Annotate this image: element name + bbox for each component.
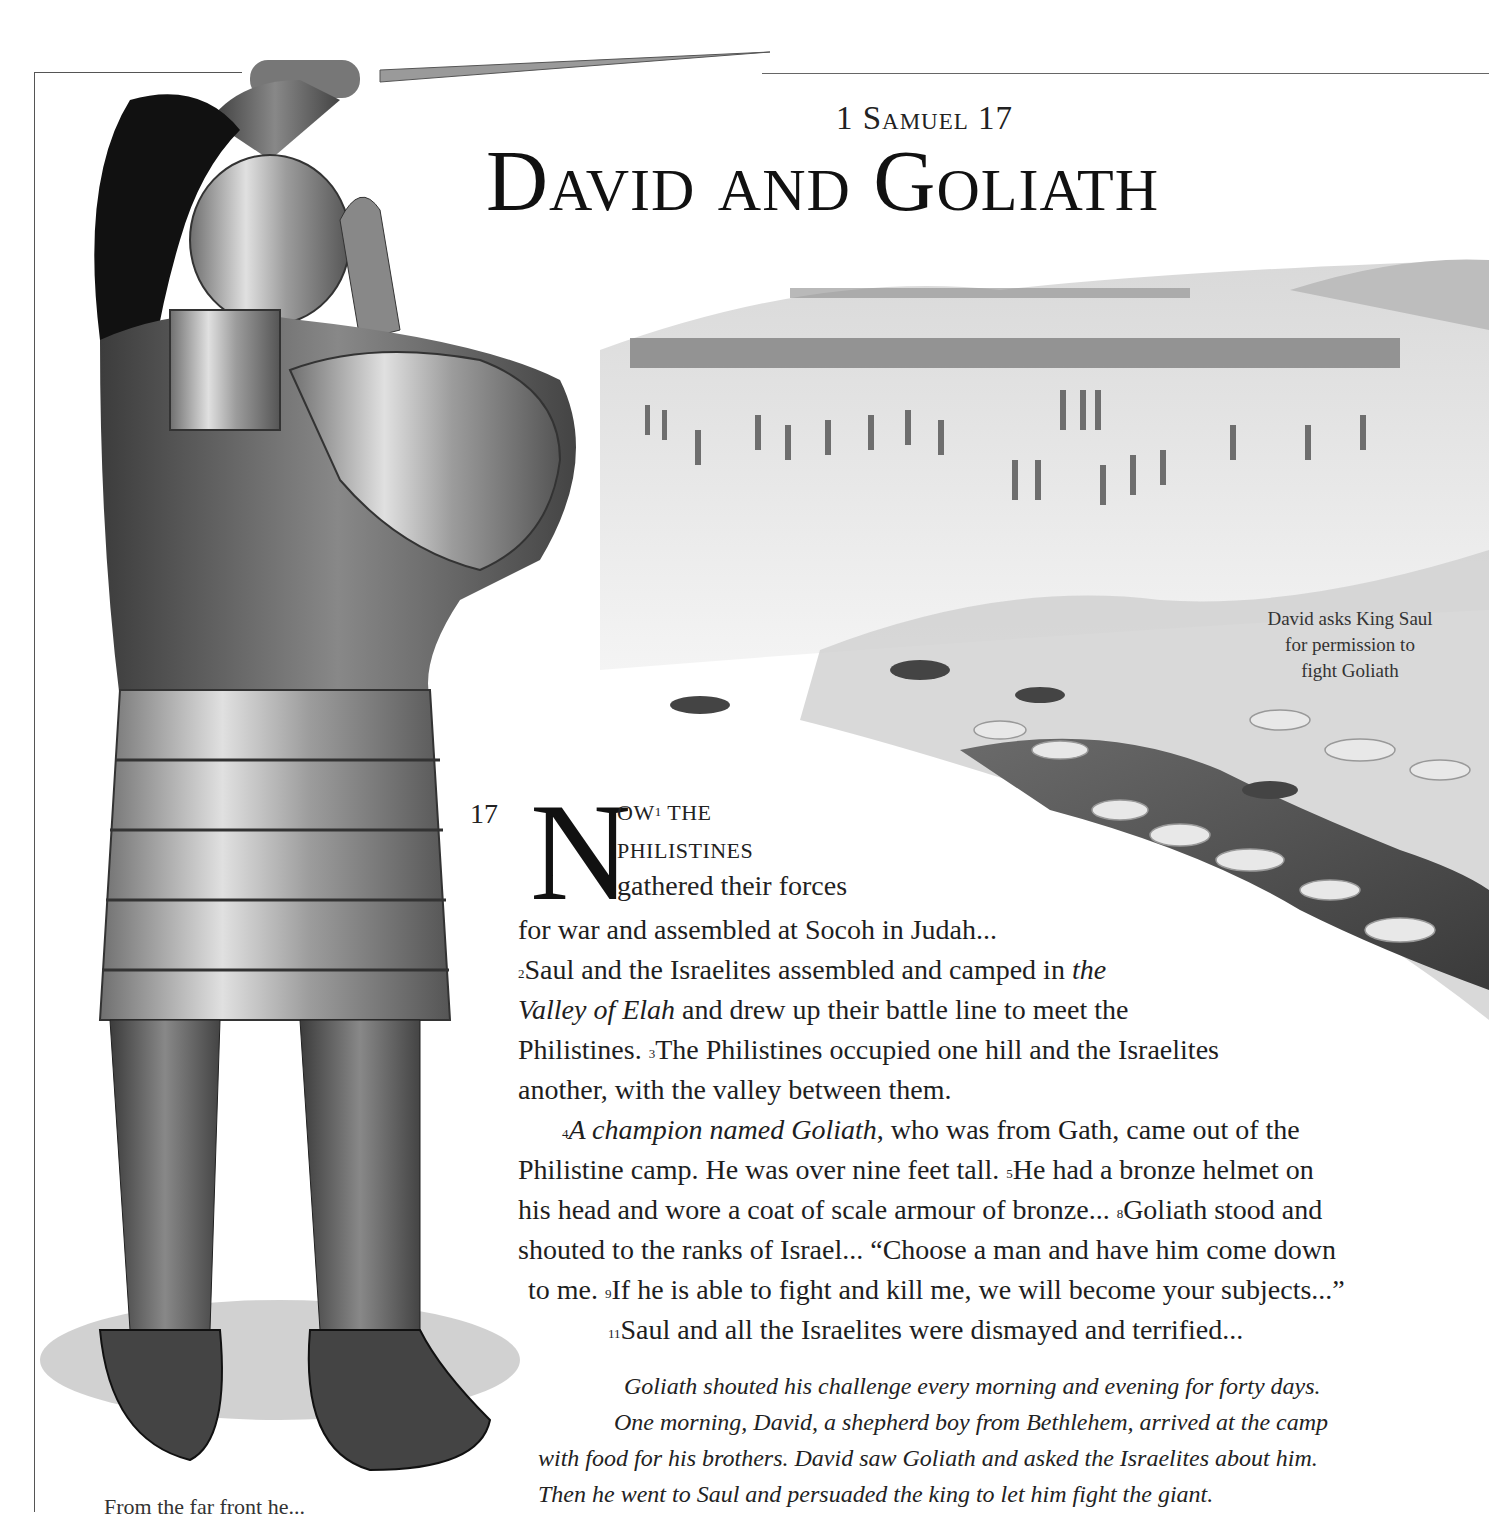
summary-line: Then he went to Saul and persuaded the k… [538, 1476, 1460, 1512]
caption-line: David asks King Saul [1236, 606, 1464, 632]
caption-line: fight Goliath [1236, 658, 1464, 684]
verse-text: , who was from Gath, came out of the [877, 1114, 1300, 1145]
verse-text: He had a bronze helmet on [1013, 1154, 1314, 1185]
verse-text: Saul and the Israelites assembled and ca… [525, 954, 1072, 985]
lead-line-3: gathered their forces [617, 870, 847, 902]
drop-cap: N [530, 782, 631, 922]
scripture-line: his head and wore a coat of scale armour… [518, 1190, 1322, 1230]
chapter-number: 17 [470, 798, 498, 830]
goliath-caption-partial: From the far front he... [104, 1494, 305, 1518]
verse-number: 9 [605, 1286, 612, 1301]
verse-text: Philistines. [518, 1034, 649, 1065]
scripture-reference: 1 Samuel 17 [0, 100, 1489, 137]
scripture-line: another, with the valley between them. [518, 1070, 952, 1110]
verse-number: 4 [562, 1126, 569, 1141]
verse-number: 5 [1006, 1166, 1013, 1181]
verse-text: Goliath stood and [1123, 1194, 1322, 1225]
story-summary: Goliath shouted his challenge every morn… [560, 1368, 1460, 1512]
scripture-line: 11Saul and all the Israelites were disma… [608, 1310, 1243, 1350]
verse-number: 3 [649, 1046, 656, 1061]
verse-text: If he is able to fight and kill me, we w… [612, 1274, 1345, 1305]
landscape-caption: David asks King Saul for permission to f… [1236, 606, 1464, 684]
frame-rule-top-right [762, 73, 1489, 74]
verse-text-italic: Valley of Elah [518, 994, 675, 1025]
scripture-line: for war and assembled at Socoh in Judah.… [518, 910, 997, 950]
verse-text: and drew up their battle line to meet th… [675, 994, 1128, 1025]
verse-text: Philistine camp. He was over nine feet t… [518, 1154, 1006, 1185]
scripture-line: shouted to the ranks of Israel... “Choos… [518, 1230, 1336, 1270]
lead-line-1: OW1 THE [617, 800, 712, 826]
summary-line: with food for his brothers. David saw Go… [538, 1440, 1460, 1476]
verse-text: The Philistines occupied one hill and th… [655, 1034, 1219, 1065]
scripture-line: Philistines. 3The Philistines occupied o… [518, 1030, 1219, 1070]
scripture-line: Valley of Elah and drew up their battle … [518, 990, 1128, 1030]
scripture-line: to me. 9If he is able to fight and kill … [528, 1270, 1345, 1310]
verse-number: 1 [655, 804, 662, 819]
verse-text-italic: the [1072, 954, 1106, 985]
page-title: David and Goliath [486, 138, 1159, 224]
scripture-line: 4A champion named Goliath, who was from … [562, 1110, 1300, 1150]
summary-line: One morning, David, a shepherd boy from … [560, 1404, 1460, 1440]
verse-text: to me. [528, 1274, 605, 1305]
frame-rule-left [34, 72, 35, 1512]
lead-line-2: PHILISTINES [617, 838, 753, 864]
verse-text: his head and wore a coat of scale armour… [518, 1194, 1117, 1225]
lead-text: THE [662, 800, 712, 825]
lead-text: OW [617, 800, 655, 825]
verse-number: 11 [608, 1326, 621, 1341]
summary-line: Goliath shouted his challenge every morn… [560, 1368, 1460, 1404]
verse-text: Saul and all the Israelites were dismaye… [621, 1314, 1244, 1345]
verse-number: 2 [518, 966, 525, 981]
verse-number: 8 [1117, 1206, 1124, 1221]
verse-text-italic: A champion named Goliath [569, 1114, 877, 1145]
scripture-line: Philistine camp. He was over nine feet t… [518, 1150, 1314, 1190]
caption-line: for permission to [1236, 632, 1464, 658]
scripture-line: 2Saul and the Israelites assembled and c… [518, 950, 1106, 990]
